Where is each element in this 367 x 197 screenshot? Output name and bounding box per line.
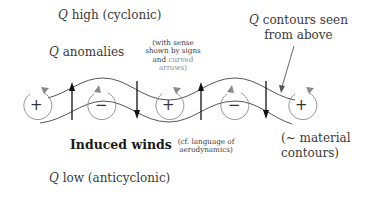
q-low-label: Q low (anticyclonic) <box>49 172 170 184</box>
curved-arrowheads <box>41 85 314 94</box>
anomaly-sign-plus: + <box>295 98 308 113</box>
q-contours-line1: contours seen <box>259 13 348 27</box>
q-symbol: Q <box>49 171 59 185</box>
induced-winds-label: Induced winds <box>70 139 172 152</box>
anomaly-sign-plus: + <box>162 98 175 113</box>
material-contours-label: (~ material contours) <box>281 131 351 161</box>
aero-note-line2: aerodynamics) <box>168 146 244 154</box>
q-contours-line2: from above <box>249 28 348 43</box>
q-contours-label: Q contours seen from above <box>249 13 348 43</box>
q-symbol: Q <box>58 8 68 22</box>
contour-pointer-arrow <box>282 46 294 87</box>
anomaly-sign-plus: + <box>30 98 43 113</box>
q-symbol: Q <box>249 13 259 27</box>
anomaly-sign-minus: − <box>95 98 108 113</box>
sense-note-line4: arrows) <box>136 64 210 72</box>
anomaly-sign-minus: − <box>228 98 241 113</box>
q-high-text: high (cyclonic) <box>68 8 162 22</box>
sense-note: (with sense shown by signs and curved ar… <box>136 39 210 73</box>
aero-note: (cf. language of aerodynamics) <box>168 138 244 155</box>
material-contours-line2: contours) <box>281 146 351 161</box>
q-anomalies-text: anomalies <box>59 45 124 59</box>
q-low-text: low (anticyclonic) <box>59 171 170 185</box>
material-contours-line1: (~ material <box>281 131 351 146</box>
q-anomalies-label: Q anomalies <box>49 46 124 58</box>
q-symbol: Q <box>49 45 59 59</box>
q-high-label: Q high (cyclonic) <box>58 9 161 21</box>
